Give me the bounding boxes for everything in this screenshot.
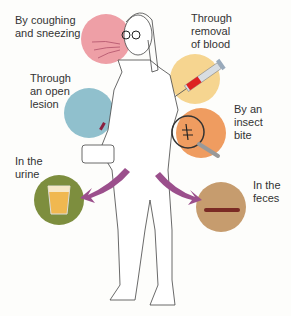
feces-icon [204,208,240,212]
label-line: In the [253,179,281,192]
label-line: feces [253,192,281,205]
label-line: In the [15,155,43,168]
handbag-icon [82,145,114,163]
urine-cup-icon [48,186,70,214]
label-feces: In the feces [253,179,281,205]
label-line: lesion [30,98,71,111]
label-line: By an [234,103,263,116]
label-line: removal [191,25,232,38]
label-cough: By coughing and sneezing [15,14,80,40]
breath-icon [92,41,120,58]
label-urine: In the urine [15,155,43,181]
label-lesion: Through an open lesion [30,72,71,111]
label-line: Through [191,12,232,25]
label-line: By coughing [15,14,80,27]
lesion-icon [99,122,106,130]
label-line: insect [234,116,263,129]
label-line: an open [30,85,71,98]
magnifier-insect-icon [172,116,218,156]
label-line: bite [234,129,263,142]
label-insect: By an insect bite [234,103,263,142]
label-line: and sneezing [15,27,80,40]
label-line: of blood [191,38,232,51]
syringe-icon [172,59,226,101]
label-blood: Through removal of blood [191,12,232,51]
label-line: urine [15,168,43,181]
label-line: Through [30,72,71,85]
figure-illustration [0,0,291,316]
